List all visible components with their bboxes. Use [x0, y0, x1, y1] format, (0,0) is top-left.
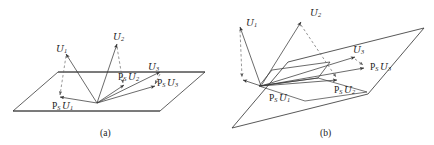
- label-a-u2: U2: [113, 32, 124, 43]
- figure-drawing: [0, 0, 434, 145]
- panel-a-projections: [60, 85, 155, 103]
- label-b-u3-base: U: [353, 44, 361, 55]
- label-b-ps-u1-sub: 1: [287, 96, 290, 103]
- label-a-ps-u2-sub: 2: [136, 75, 139, 82]
- label-b-u2: U2: [310, 8, 321, 19]
- label-a-u1-sub: 1: [64, 47, 67, 54]
- label-b-ps-u3: PSU3: [370, 62, 391, 73]
- label-b-u3: U3: [353, 45, 364, 56]
- label-a-ps-u2: PSU2: [118, 72, 139, 83]
- label-a-ps-u3: PSU3: [157, 78, 178, 89]
- panel-a-dropline-dashes: [60, 47, 160, 95]
- label-a-ps-u1: PSU1: [52, 101, 73, 112]
- label-b-ps-u2-sub: 2: [352, 88, 355, 95]
- label-a-ps-u3-base: U: [166, 77, 175, 88]
- label-b-u3-sub: 3: [361, 48, 364, 55]
- label-a-u1-base: U: [56, 43, 64, 54]
- label-b-ps-u1: PSU1: [269, 93, 290, 104]
- label-b-ps-u2-base: U: [343, 84, 352, 95]
- panel-b-vectors: [240, 22, 355, 86]
- label-a-u3-base: U: [148, 61, 156, 72]
- caption-panel-a: (a): [100, 128, 111, 138]
- label-b-u1-sub: 1: [254, 21, 257, 28]
- vector-projection-figure: U1 U2 U3 PSU1 PSU2 PSU3 U1 U2 U3 PSU1 PS…: [0, 0, 434, 145]
- label-a-ps-u2-base: U: [127, 71, 136, 82]
- panel-b-plane: [232, 28, 424, 128]
- label-a-u2-sub: 2: [121, 35, 124, 42]
- label-b-ps-u3-base: U: [379, 61, 388, 72]
- panel-a-vectors: [66, 44, 160, 103]
- label-a-u2-base: U: [113, 31, 121, 42]
- label-a-u3-sub: 3: [156, 65, 159, 72]
- label-b-ps-u2: PSU2: [334, 85, 355, 96]
- label-a-ps-u1-sub: 1: [70, 104, 73, 111]
- label-b-ps-u3-sub: 3: [388, 65, 391, 72]
- label-b-u2-base: U: [310, 7, 318, 18]
- label-a-u3: U3: [148, 62, 159, 73]
- panel-b-dropline-dashes: [240, 25, 363, 77]
- label-a-u1: U1: [56, 44, 67, 55]
- label-a-ps-u3-sub: 3: [175, 81, 178, 88]
- caption-panel-b: (b): [320, 128, 331, 138]
- label-b-u2-sub: 2: [318, 11, 321, 18]
- label-b-u1-base: U: [246, 17, 254, 28]
- label-b-ps-u1-base: U: [278, 92, 287, 103]
- label-a-ps-u1-base: U: [61, 100, 70, 111]
- label-b-u1: U1: [246, 18, 257, 29]
